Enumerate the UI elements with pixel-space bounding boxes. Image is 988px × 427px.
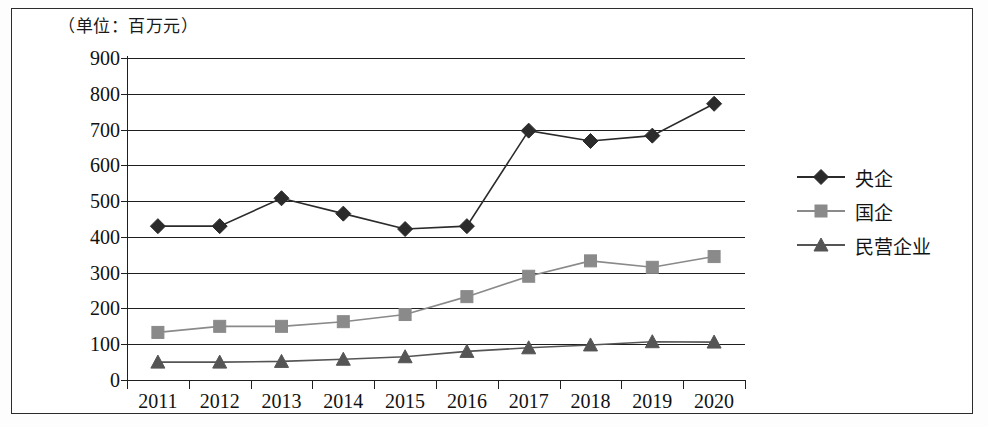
y-axis-tick-label: 500 [62, 190, 120, 213]
y-axis-tick-label: 800 [62, 82, 120, 105]
x-axis-tick [312, 380, 313, 389]
diamond-marker [459, 219, 474, 234]
y-axis-tick-label: 300 [62, 261, 120, 284]
x-axis-labels: 2011201220132014201520162017201820192020 [127, 390, 745, 420]
chart-legend: 央企国企民营企业 [795, 160, 965, 262]
series-line [158, 257, 714, 333]
diamond-marker [212, 219, 227, 234]
legend-key [795, 202, 847, 220]
y-axis-tick-label: 100 [62, 333, 120, 356]
square-marker [399, 309, 411, 321]
y-axis-labels: 0100200300400500600700800900 [62, 58, 120, 380]
series-diamond [150, 96, 721, 236]
x-axis-tick-label: 2018 [571, 390, 611, 413]
diamond-marker [336, 206, 351, 221]
x-axis-tick [498, 380, 499, 389]
square-marker [461, 291, 473, 303]
x-axis-tick-label: 2017 [509, 390, 549, 413]
legend-item[interactable]: 国企 [795, 194, 965, 228]
x-axis-tick-label: 2014 [323, 390, 363, 413]
y-axis-tick-label: 0 [62, 369, 120, 392]
x-axis-tick-label: 2016 [447, 390, 487, 413]
x-axis-tick [127, 380, 128, 389]
y-axis-tick-label: 200 [62, 297, 120, 320]
square-marker [337, 316, 349, 328]
square-marker [276, 320, 288, 332]
square-marker [214, 320, 226, 332]
legend-item[interactable]: 民营企业 [795, 228, 965, 262]
legend-label: 央企 [855, 164, 893, 191]
square-marker [152, 326, 164, 338]
x-axis-tick-label: 2012 [200, 390, 240, 413]
y-axis-tick-label: 700 [62, 118, 120, 141]
y-axis-tick-label: 600 [62, 154, 120, 177]
legend-label: 民营企业 [855, 232, 931, 259]
x-axis-tick-label: 2011 [138, 390, 177, 413]
diamond-marker [645, 128, 660, 143]
x-axis-tick-label: 2015 [385, 390, 425, 413]
x-axis-tick [560, 380, 561, 389]
x-axis-tick-label: 2020 [694, 390, 734, 413]
legend-item[interactable]: 央企 [795, 160, 965, 194]
legend-key [795, 168, 847, 186]
diamond-marker [814, 170, 829, 185]
series-triangle [151, 335, 721, 368]
square-marker [815, 205, 827, 217]
x-axis-tick [436, 380, 437, 389]
unit-label: （单位：百万元） [58, 12, 198, 37]
y-axis-tick-label: 400 [62, 225, 120, 248]
x-axis-tick-label: 2013 [262, 390, 302, 413]
square-marker [585, 255, 597, 267]
diamond-marker [707, 96, 722, 111]
legend-label: 国企 [855, 198, 893, 225]
x-axis-tick [621, 380, 622, 389]
diamond-marker [150, 219, 165, 234]
square-marker [523, 270, 535, 282]
diamond-marker [521, 123, 536, 138]
y-axis-tick-label: 900 [62, 47, 120, 70]
diamond-marker [583, 134, 598, 149]
x-axis-tick [374, 380, 375, 389]
diamond-marker [398, 222, 413, 237]
x-axis-tick [189, 380, 190, 389]
x-axis-tick [745, 380, 746, 389]
x-axis-tick [251, 380, 252, 389]
series-line [158, 104, 714, 229]
series-line [158, 342, 714, 362]
x-axis-tick [683, 380, 684, 389]
square-marker [708, 251, 720, 263]
series-square [152, 251, 720, 339]
diamond-marker [274, 191, 289, 206]
series-layer [127, 58, 745, 380]
x-axis-tick-label: 2019 [632, 390, 672, 413]
square-marker [646, 261, 658, 273]
chart-figure: （单位：百万元） 0100200300400500600700800900 20… [0, 0, 988, 427]
legend-key [795, 236, 847, 254]
